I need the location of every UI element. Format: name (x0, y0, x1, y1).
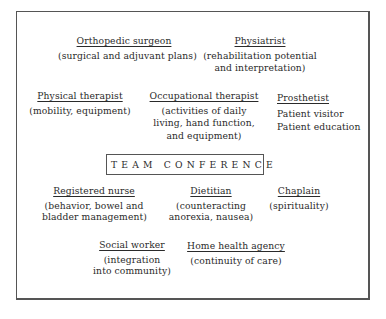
node-description: (rehabilitation potential (200, 50, 320, 63)
node-title: Physical therapist (37, 90, 122, 103)
node-physical-therapist: Physical therapist (mobility, equipment) (26, 90, 134, 117)
node-title: Registered nurse (53, 185, 135, 197)
node-title: Chaplain (278, 185, 320, 197)
node-orthopedic-surgeon: Orthopedic surgeon (surgical and adjuvan… (58, 35, 190, 62)
node-title: Prosthetist (277, 91, 329, 105)
node-dietitian: Dietitian (counteracting anorexia, nause… (166, 185, 256, 223)
node-description: anorexia, nausea) (166, 211, 256, 223)
node-description: (activities of daily (148, 105, 260, 118)
node-physiatrist: Physiatrist (rehabilitation potential an… (200, 35, 320, 75)
node-title: Occupational therapist (150, 90, 259, 103)
node-description: (mobility, equipment) (26, 105, 134, 118)
node-description: (spirituality) (264, 200, 334, 212)
node-registered-nurse: Registered nurse (behavior, bowel and bl… (42, 185, 146, 223)
node-description: (integration (92, 254, 172, 266)
node-description: (counteracting (166, 200, 256, 212)
node-description: and equipment) (148, 130, 260, 143)
node-title: Orthopedic surgeon (77, 35, 172, 48)
team-conference-box: TEAM CONFERENCE (106, 154, 264, 175)
node-description: (behavior, bowel and (42, 200, 146, 212)
node-title: Physiatrist (235, 35, 286, 48)
node-chaplain: Chaplain (spirituality) (264, 185, 334, 211)
node-description: Patient visitor (277, 107, 367, 121)
node-description: into community) (92, 265, 172, 277)
node-occupational-therapist: Occupational therapist (activities of da… (148, 90, 260, 142)
node-description: Patient education (277, 120, 367, 134)
node-title: Dietitian (190, 185, 231, 197)
node-description: and interpretation) (200, 62, 320, 75)
node-title: Social worker (99, 239, 165, 251)
node-description: bladder management) (42, 211, 146, 223)
node-description: (surgical and adjuvant plans) (58, 50, 190, 63)
node-home-health-agency: Home health agency (continuity of care) (186, 240, 286, 266)
node-title: Home health agency (187, 240, 285, 252)
node-description: living, hand function, (148, 117, 260, 130)
node-prosthetist: Prosthetist Patient visitor Patient educ… (277, 91, 367, 134)
node-social-worker: Social worker (integration into communit… (92, 239, 172, 277)
node-description: (continuity of care) (186, 255, 286, 267)
